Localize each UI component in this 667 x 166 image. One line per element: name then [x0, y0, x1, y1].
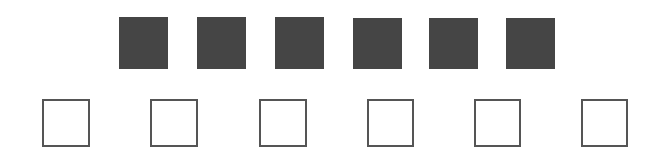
empty-slot[interactable]: [150, 99, 198, 147]
empty-slot[interactable]: [367, 99, 414, 147]
empty-slot[interactable]: [259, 99, 307, 147]
empty-slot[interactable]: [581, 99, 628, 147]
filled-tile[interactable]: [506, 18, 555, 69]
filled-tile[interactable]: [197, 17, 246, 69]
filled-tile[interactable]: [353, 18, 402, 69]
empty-slot[interactable]: [42, 99, 90, 147]
filled-tile[interactable]: [429, 18, 478, 69]
empty-slot[interactable]: [474, 99, 521, 147]
filled-tile[interactable]: [119, 17, 168, 69]
filled-tile[interactable]: [275, 17, 324, 69]
